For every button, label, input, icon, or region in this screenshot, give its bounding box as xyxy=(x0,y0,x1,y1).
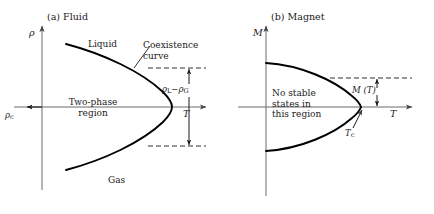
panel-b-vertical-axis-label: M xyxy=(253,27,263,38)
panel-b-no-stable-states-label: No stable states in this region xyxy=(272,88,321,120)
panel-a-coexistence-curve-label-line2: curve xyxy=(143,51,198,62)
physics-figure-coexistence-curves: (a) Fluid ρ T ρc Liquid Gas Coexistence … xyxy=(0,0,434,214)
panel-a-coexistence-curve-label-line1: Coexistence xyxy=(143,40,198,51)
panel-b-axes xyxy=(238,26,412,196)
panel-a-vertical-axis-label: ρ xyxy=(29,27,35,38)
panel-b-critical-temperature-subscript: c xyxy=(351,131,355,139)
panel-a-liquid-label: Liquid xyxy=(88,39,117,50)
panel-a-two-phase-region-line2: region xyxy=(55,108,131,119)
panel-b-critical-temperature-label: Tc xyxy=(345,128,354,140)
panel-a-two-phase-region-label: Two-phase region xyxy=(55,97,131,118)
panel-a-order-parameter-label: ρL−ρG xyxy=(162,84,189,96)
panel-b-no-stable-states-line3: this region xyxy=(272,109,321,120)
panel-b-no-stable-states-line1: No stable xyxy=(272,88,321,99)
panel-a-horizontal-axis-label: T xyxy=(183,108,189,119)
panel-a-critical-density-label: ρc xyxy=(5,110,14,122)
panel-a-two-phase-region-line1: Two-phase xyxy=(55,97,131,108)
panel-b-no-stable-states-line2: states in xyxy=(272,99,321,110)
panel-b-horizontal-axis-label: T xyxy=(390,108,396,119)
panel-a-coexistence-curve-label: Coexistence curve xyxy=(143,40,198,61)
panel-a-critical-density-subscript: c xyxy=(10,113,14,121)
panel-b-magnetization-label: M (T) xyxy=(352,85,376,95)
panel-a-title: (a) Fluid xyxy=(47,11,88,22)
panel-a-gas-label: Gas xyxy=(108,175,125,186)
panel-a-order-parameter-rho-gas-subscript: G xyxy=(183,87,188,95)
panel-b-title: (b) Magnet xyxy=(271,11,325,22)
